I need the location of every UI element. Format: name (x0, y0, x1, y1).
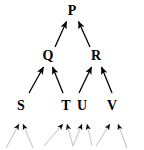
node-label-v: V (105, 99, 119, 113)
faded-edge-into-v-left (96, 124, 110, 146)
faded-edge-into-v-right (118, 124, 127, 148)
node-label-s: S (14, 99, 28, 113)
faded-edge-into-t-left (44, 124, 63, 146)
faded-edge-into-s-right (23, 124, 33, 148)
faded-edge-into-t-right (67, 124, 73, 146)
faded-edge-into-u-left (73, 124, 82, 146)
node-label-t: T (59, 99, 73, 113)
edge-v-to-r (102, 67, 113, 93)
edge-s-to-q (29, 67, 44, 93)
node-label-r: R (89, 49, 103, 63)
node-label-q: Q (41, 49, 55, 63)
edge-u-to-r (79, 67, 92, 93)
node-label-u: U (75, 99, 89, 113)
diagram-edges-layer (0, 0, 144, 150)
edge-q-to-p (55, 22, 67, 48)
faded-edge-into-s-left (6, 124, 19, 148)
node-label-p: P (65, 4, 79, 18)
diagram-canvas: P Q R S T U V (0, 0, 144, 150)
faded-edge-into-u-right (87, 124, 92, 146)
edge-t-to-q (53, 67, 64, 93)
edge-r-to-p (79, 22, 91, 48)
